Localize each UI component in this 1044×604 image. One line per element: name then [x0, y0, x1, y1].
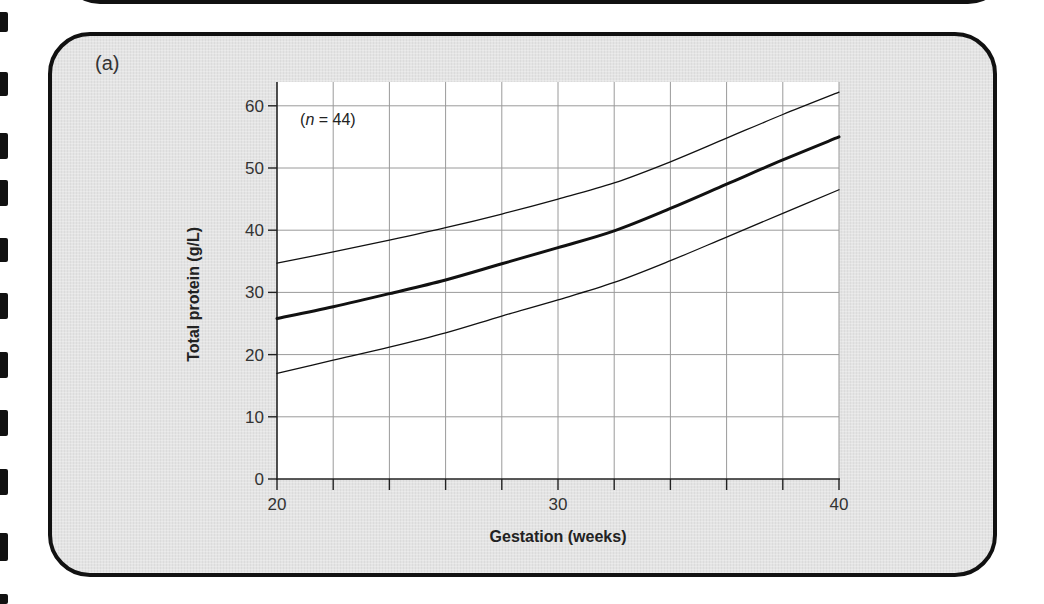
y-tick-label: 10 — [245, 408, 264, 427]
y-tick-label: 50 — [245, 159, 264, 178]
x-tick-label: 30 — [549, 495, 568, 514]
y-tick-label: 30 — [245, 283, 264, 302]
x-axis-title: Gestation (weeks) — [490, 528, 627, 545]
y-tick-label: 40 — [245, 221, 264, 240]
x-axis-ticks: 203040 — [268, 479, 849, 514]
y-tick-label: 60 — [245, 97, 264, 116]
sample-size-annotation: (n = 44) — [300, 111, 356, 128]
y-tick-label: 20 — [245, 346, 264, 365]
y-tick-label: 0 — [255, 470, 264, 489]
y-axis-ticks: 0102030405060 — [245, 97, 277, 489]
x-tick-label: 20 — [268, 495, 287, 514]
y-axis-title: Total protein (g/L) — [185, 227, 202, 362]
x-tick-label: 40 — [830, 495, 849, 514]
